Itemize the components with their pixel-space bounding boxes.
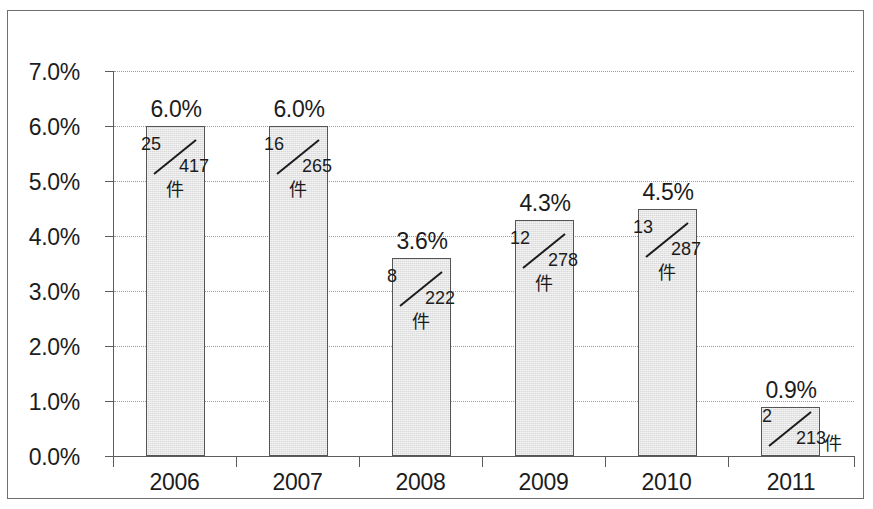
bar-annotation-2008: 8 222 件 xyxy=(383,267,459,311)
y-tick-mark xyxy=(105,71,114,72)
fraction-row: 12 278 xyxy=(506,229,582,273)
gridline xyxy=(114,236,854,237)
fraction-unit: 件 xyxy=(506,275,582,293)
x-tick-label-2011: 2011 xyxy=(728,469,854,496)
x-tick-mark xyxy=(482,456,483,467)
gridline xyxy=(114,291,854,292)
y-axis-line xyxy=(113,71,114,457)
bar-annotation-2010: 13 287 件 xyxy=(629,218,705,262)
x-tick-mark xyxy=(854,456,855,467)
y-tick-label-3: 3.0% xyxy=(0,279,80,306)
x-tick-label-2006: 2006 xyxy=(113,469,236,496)
bar-value-label-2006: 6.0% xyxy=(120,96,232,123)
fraction-unit: 件 xyxy=(383,313,459,331)
y-tick-mark xyxy=(105,181,114,182)
y-tick-label-5: 5.0% xyxy=(0,169,80,196)
y-tick-mark xyxy=(105,401,114,402)
bar-chart-figure: 7.0% 6.0% 5.0% 4.0% 3.0% 2.0% 1.0% 0.0% … xyxy=(0,0,873,509)
y-tick-mark xyxy=(105,126,114,127)
gridline xyxy=(114,126,854,127)
bar-value-label-2010: 4.5% xyxy=(612,179,724,206)
x-tick-label-2009: 2009 xyxy=(482,469,605,496)
x-tick-mark xyxy=(113,456,114,467)
y-tick-label-7: 7.0% xyxy=(0,59,80,86)
fraction-unit: 件 xyxy=(137,181,213,199)
bar-annotation-2011: 2 213 xyxy=(752,407,828,451)
x-tick-mark xyxy=(728,456,729,467)
x-tick-label-2008: 2008 xyxy=(359,469,482,496)
fraction-row: 2 213 xyxy=(752,407,828,451)
y-tick-mark xyxy=(105,291,114,292)
fraction-row: 16 265 xyxy=(260,135,336,179)
x-tick-label-2007: 2007 xyxy=(236,469,359,496)
x-axis-line xyxy=(113,456,854,457)
x-tick-mark xyxy=(605,456,606,467)
bar-annotation-2007: 16 265 件 xyxy=(260,135,336,179)
bar-value-label-2009: 4.3% xyxy=(489,190,601,217)
fraction-row: 25 417 xyxy=(137,135,213,179)
gridline xyxy=(114,71,854,72)
fraction-numerator: 8 xyxy=(387,267,397,285)
x-tick-mark xyxy=(359,456,360,467)
fraction-unit: 件 xyxy=(260,181,336,199)
fraction-denominator: 222 xyxy=(425,289,455,307)
bar-value-label-2011: 0.9% xyxy=(735,377,847,404)
fraction-row: 8 222 xyxy=(383,267,459,311)
y-tick-label-0: 0.0% xyxy=(0,444,80,471)
fraction-row: 13 287 xyxy=(629,218,705,262)
y-tick-mark xyxy=(105,346,114,347)
fraction-denominator: 287 xyxy=(671,240,701,258)
fraction-denominator: 213 xyxy=(796,429,826,447)
y-tick-label-6: 6.0% xyxy=(0,114,80,141)
fraction-denominator: 417 xyxy=(179,157,209,175)
fraction-unit: 件 xyxy=(629,264,705,282)
bar-annotation-2011-unit: 件 xyxy=(824,429,842,455)
x-tick-label-2010: 2010 xyxy=(605,469,728,496)
bar-annotation-2006: 25 417 件 xyxy=(137,135,213,179)
y-tick-mark xyxy=(105,236,114,237)
bar-value-label-2007: 6.0% xyxy=(243,96,355,123)
gridline xyxy=(114,346,854,347)
y-tick-label-2: 2.0% xyxy=(0,334,80,361)
fraction-denominator: 278 xyxy=(548,251,578,269)
bar-annotation-2009: 12 278 件 xyxy=(506,229,582,273)
y-tick-label-1: 1.0% xyxy=(0,389,80,416)
gridline xyxy=(114,181,854,182)
fraction-denominator: 265 xyxy=(302,157,332,175)
y-tick-label-4: 4.0% xyxy=(0,224,80,251)
bar-value-label-2008: 3.6% xyxy=(366,228,478,255)
x-tick-mark xyxy=(236,456,237,467)
figure-frame: 7.0% 6.0% 5.0% 4.0% 3.0% 2.0% 1.0% 0.0% … xyxy=(7,10,864,499)
